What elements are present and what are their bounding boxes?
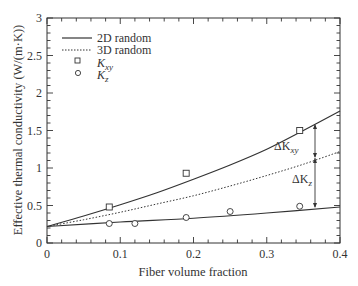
arrow-down-icon — [313, 153, 317, 158]
y-tick-label: 0.5 — [27, 199, 42, 213]
kz-data-point — [227, 209, 233, 215]
x-tick-label: 0.1 — [113, 247, 128, 261]
legend: 2D random 3D random Kxy Kz — [62, 31, 152, 84]
kxy-data-point — [297, 128, 303, 134]
plot-axes: 00.10.20.30.400.511.522.53 — [27, 11, 348, 261]
y-tick-label: 1 — [36, 161, 42, 175]
annotations: ΔKxy ΔKz — [274, 124, 317, 208]
plot-frame — [47, 18, 340, 243]
y-axis-label: Effective thermal conductivity (W/(m·K)) — [11, 25, 25, 235]
y-tick-label: 0 — [36, 236, 42, 250]
kz-data-point — [132, 221, 138, 227]
series-3d-random — [47, 152, 340, 227]
legend-3d-label: 3D random — [97, 43, 152, 57]
x-axis-label: Fiber volume fraction — [139, 265, 249, 279]
annotation-delta-kxy: ΔKxy — [274, 139, 298, 155]
x-tick-label: 0 — [44, 247, 50, 261]
x-tick-label: 0.3 — [259, 247, 274, 261]
kxy-data-point — [106, 204, 112, 210]
y-tick-label: 2.5 — [27, 49, 42, 63]
series-2d-random — [47, 111, 340, 227]
arrow-down-icon — [313, 203, 317, 208]
series-kz-model — [47, 207, 340, 227]
chart: 00.10.20.30.400.511.522.53 2D random 3D … — [0, 0, 358, 286]
legend-circle-marker-icon — [75, 70, 80, 75]
y-tick-label: 3 — [36, 11, 42, 25]
legend-square-marker-icon — [75, 58, 80, 63]
x-tick-label: 0.4 — [333, 247, 348, 261]
x-tick-label: 0.2 — [186, 247, 201, 261]
kz-data-point — [183, 215, 189, 221]
annotation-delta-kz: ΔKz — [292, 172, 312, 188]
kxy-data-point — [183, 170, 189, 176]
kz-data-point — [106, 221, 112, 227]
y-tick-label: 1.5 — [27, 124, 42, 138]
y-tick-label: 2 — [36, 86, 42, 100]
plot-series — [47, 111, 340, 227]
kz-data-point — [297, 203, 303, 209]
